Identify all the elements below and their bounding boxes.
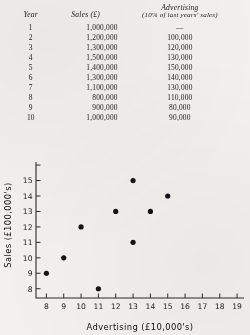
table-row: 71,100,000130,000	[8, 83, 242, 93]
x-tick-label: 19	[232, 302, 242, 311]
cell-sales: 900,000	[54, 103, 118, 113]
cell-advertising: 100,000	[118, 33, 242, 43]
cell-sales: 800,000	[54, 93, 118, 103]
cell-year: 8	[8, 93, 54, 103]
data-point	[165, 193, 170, 198]
data-point	[44, 271, 49, 276]
table-row: 21,200,000100,000	[8, 33, 242, 43]
cell-advertising: 90,000	[118, 113, 242, 123]
table-header-row: Year Sales (£) Advertising (10% of last …	[8, 4, 242, 23]
cell-year: 2	[8, 33, 54, 43]
x-tick-label: 15	[163, 302, 173, 311]
y-tick-label: 8	[28, 285, 33, 294]
cell-year: 4	[8, 53, 54, 63]
cell-sales: 1,000,000	[54, 23, 118, 33]
x-tick-label: 14	[146, 302, 156, 311]
cell-sales: 1,400,000	[54, 63, 118, 73]
table-body: 11,000,000—21,200,000100,00031,300,00012…	[8, 23, 242, 123]
y-tick-label: 11	[23, 238, 33, 247]
y-tick-label: 9	[28, 269, 33, 278]
data-point	[96, 286, 101, 291]
cell-year: 6	[8, 73, 54, 83]
y-tick-label: 12	[23, 223, 33, 232]
data-point	[78, 224, 83, 229]
table-row: 31,300,000120,000	[8, 43, 242, 53]
data-points	[44, 178, 171, 291]
y-axis-ticks: 89101112131415	[23, 165, 41, 293]
table-row: 101,000,00090,000	[8, 113, 242, 123]
x-axis-title: Advertising (£10,000's)	[86, 322, 193, 332]
data-point	[61, 255, 66, 260]
x-tick-label: 13	[128, 302, 138, 311]
column-header-advertising: Advertising (10% of last years' sales)	[118, 4, 242, 23]
table-row: 11,000,000—	[8, 23, 242, 33]
cell-year: 3	[8, 43, 54, 53]
x-tick-label: 11	[94, 302, 104, 311]
cell-sales: 1,000,000	[54, 113, 118, 123]
sales-advertising-table: Year Sales (£) Advertising (10% of last …	[8, 4, 242, 123]
y-tick-label: 15	[23, 176, 33, 185]
y-tick-label: 13	[23, 207, 33, 216]
cell-advertising: 80,000	[118, 103, 242, 113]
column-header-sales: Sales (£)	[54, 4, 118, 23]
x-tick-label: 12	[111, 302, 121, 311]
cell-advertising: 140,000	[118, 73, 242, 83]
data-point	[113, 209, 118, 214]
x-tick-label: 18	[215, 302, 225, 311]
x-tick-label: 17	[198, 302, 208, 311]
cell-year: 1	[8, 23, 54, 33]
x-tick-label: 8	[44, 302, 49, 311]
column-header-advertising-note: (10% of last years' sales)	[118, 12, 242, 19]
cell-year: 10	[8, 113, 54, 123]
data-point	[130, 178, 135, 183]
data-point	[148, 209, 153, 214]
y-tick-label: 10	[23, 254, 33, 263]
data-point	[130, 240, 135, 245]
x-tick-label: 16	[180, 302, 190, 311]
table-header: Year Sales (£) Advertising (10% of last …	[8, 4, 242, 23]
cell-advertising: 110,000	[118, 93, 242, 103]
y-tick-label: 14	[23, 192, 33, 201]
cell-sales: 1,300,000	[54, 73, 118, 83]
cell-advertising: 130,000	[118, 53, 242, 63]
scanned-page: Year Sales (£) Advertising (10% of last …	[0, 0, 250, 335]
table-row: 8800,000110,000	[8, 93, 242, 103]
table-row: 41,500,000130,000	[8, 53, 242, 63]
scatter-chart-container: 8910111213141516171819 89101112131415 Ad…	[0, 150, 250, 335]
table-row: 9900,00080,000	[8, 103, 242, 113]
x-axis-ticks: 8910111213141516171819	[44, 294, 242, 312]
cell-advertising: 120,000	[118, 43, 242, 53]
y-axis-title: Sales (£100,000's)	[3, 182, 13, 267]
cell-advertising: 150,000	[118, 63, 242, 73]
cell-sales: 1,300,000	[54, 43, 118, 53]
cell-sales: 1,200,000	[54, 33, 118, 43]
cell-year: 9	[8, 103, 54, 113]
table-row: 61,300,000140,000	[8, 73, 242, 83]
scatter-plot: 8910111213141516171819 89101112131415 Ad…	[0, 150, 250, 335]
cell-advertising: —	[118, 23, 242, 33]
cell-year: 5	[8, 63, 54, 73]
cell-sales: 1,500,000	[54, 53, 118, 63]
plot-axes	[36, 162, 244, 298]
cell-sales: 1,100,000	[54, 83, 118, 93]
x-tick-label: 10	[76, 302, 86, 311]
column-header-year: Year	[8, 4, 54, 23]
table-row: 51,400,000150,000	[8, 63, 242, 73]
data-table-container: Year Sales (£) Advertising (10% of last …	[0, 4, 250, 123]
cell-advertising: 130,000	[118, 83, 242, 93]
x-tick-label: 9	[61, 302, 66, 311]
cell-year: 7	[8, 83, 54, 93]
